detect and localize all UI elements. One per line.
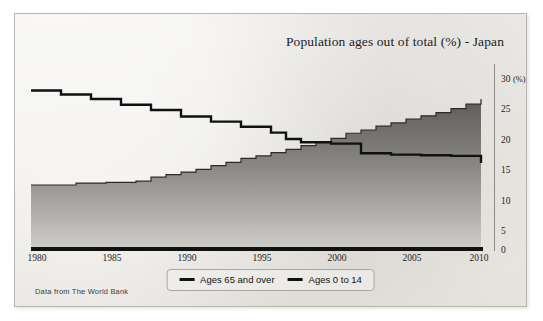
y-tick-25: 25 bbox=[501, 104, 511, 114]
plot-area bbox=[31, 55, 481, 249]
page-title: Population ages out of total (%) - Japan bbox=[286, 34, 504, 50]
chart-card: Population ages out of total (%) - Japan… bbox=[14, 13, 527, 307]
x-tick-1990: 1990 bbox=[178, 253, 197, 263]
legend-swatch-icon bbox=[288, 278, 303, 281]
y-tick-0: 0 bbox=[501, 245, 506, 255]
legend-label: Ages 0 to 14 bbox=[309, 274, 362, 285]
y-tick-20: 20 bbox=[501, 135, 511, 145]
x-tick-1995: 1995 bbox=[253, 253, 272, 263]
y-tick-label: 30 bbox=[501, 74, 511, 84]
x-tick-2010: 2010 bbox=[470, 253, 489, 263]
y-axis-line bbox=[494, 64, 495, 251]
series-area-ages-65-and-over bbox=[31, 99, 481, 249]
legend-label: Ages 65 and over bbox=[200, 274, 274, 285]
y-tick-30: 30 (%) bbox=[501, 74, 526, 84]
x-tick-2005: 2005 bbox=[403, 253, 422, 263]
y-tick-5: 5 bbox=[501, 226, 506, 236]
y-tick-10: 10 bbox=[501, 196, 511, 206]
y-tick-15: 15 bbox=[501, 165, 511, 175]
source-note: Data from The World Bank bbox=[35, 287, 128, 296]
legend-item-ages-65-and-over[interactable]: Ages 65 and over bbox=[179, 274, 274, 285]
x-axis-line bbox=[31, 247, 483, 251]
legend-swatch-icon bbox=[179, 278, 194, 281]
chart-legend: Ages 65 and over Ages 0 to 14 bbox=[166, 269, 375, 291]
chart-page: Population ages out of total (%) - Japan… bbox=[0, 0, 543, 321]
x-tick-1980: 1980 bbox=[28, 253, 47, 263]
x-tick-2000: 2000 bbox=[328, 253, 347, 263]
y-axis-unit: (%) bbox=[513, 74, 526, 84]
legend-item-ages-0-to-14[interactable]: Ages 0 to 14 bbox=[288, 274, 362, 285]
chart-canvas bbox=[31, 55, 481, 249]
x-tick-1985: 1985 bbox=[103, 253, 122, 263]
